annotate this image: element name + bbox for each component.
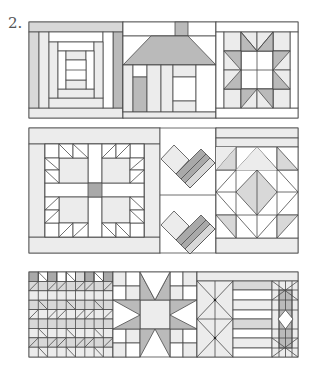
bear-paw-block [29,128,160,253]
house-block [123,22,216,118]
quilt-sampler: .ln{stroke:#4a4a4a;stroke-width:0.8;} .w… [0,0,322,370]
square-in-square-block [216,128,298,253]
eight-point-star-block [113,272,197,357]
log-cabin-block [29,22,123,118]
flying-geese-grid-block [29,272,113,357]
cross-and-stripes-block [197,272,298,357]
sawtooth-star-block [216,22,298,118]
hearts-block [160,128,216,254]
